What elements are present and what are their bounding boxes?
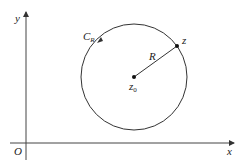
radius-label: R — [148, 50, 156, 62]
x-axis-label: x — [226, 145, 232, 157]
point-z — [175, 44, 179, 48]
point-z-label: z — [181, 34, 187, 46]
complex-plane-diagram: y x O CR R z z0 — [0, 0, 243, 166]
y-axis-label: y — [14, 12, 20, 24]
center-label: z0 — [128, 80, 137, 94]
origin-label: O — [14, 145, 22, 157]
diagram-canvas: y x O CR R z z0 — [0, 0, 243, 166]
curve-label: CR — [83, 30, 95, 44]
center-point — [132, 75, 136, 79]
